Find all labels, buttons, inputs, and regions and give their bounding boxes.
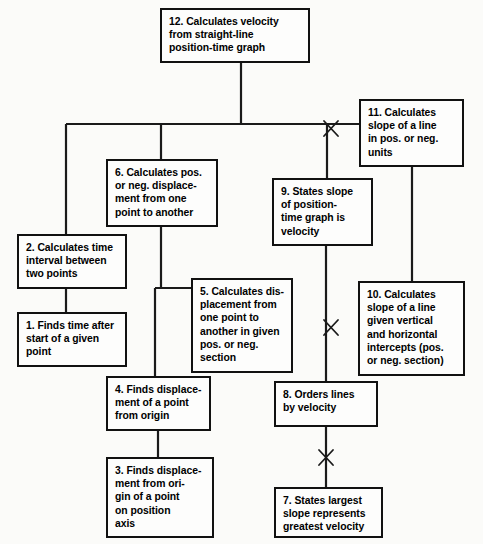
node-9[interactable]: 9. States slope of position- time graph … (272, 178, 373, 246)
node-5[interactable]: 5. Calculates dis- placement from one po… (191, 278, 293, 373)
flowchart-diagram: 12. Calculates velocity from straight-li… (0, 0, 483, 544)
node-4[interactable]: 4. Finds displace- ment of a point from … (106, 376, 211, 431)
node-8[interactable]: 8. Orders lines by velocity (274, 381, 378, 427)
node-3[interactable]: 3. Finds displace- ment from ori- gin of… (106, 457, 214, 538)
node-10[interactable]: 10. Calculates slope of a line given ver… (358, 281, 465, 376)
node-7[interactable]: 7. States largest slope represents great… (274, 487, 383, 538)
node-6[interactable]: 6. Calculates pos. or neg. displace- men… (106, 159, 218, 227)
node-1[interactable]: 1. Finds time after start of a given poi… (17, 312, 127, 367)
node-12[interactable]: 12. Calculates velocity from straight-li… (160, 8, 310, 63)
node-2[interactable]: 2. Calculates time interval between two … (17, 234, 127, 289)
node-11[interactable]: 11. Calculates slope of a line in pos. o… (359, 99, 464, 167)
